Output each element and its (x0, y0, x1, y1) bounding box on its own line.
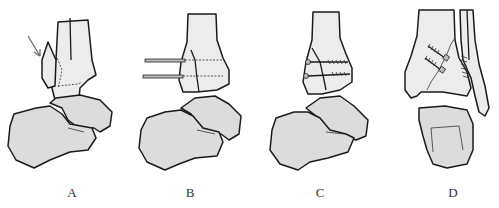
panel-b: B (125, 0, 250, 208)
ankle-illustration-b (125, 0, 250, 208)
k-wire-icon (145, 59, 185, 62)
ankle-illustration-d (375, 0, 499, 208)
panel-label-a: A (62, 185, 82, 201)
k-wire-icon (143, 75, 183, 78)
panel-label-c: C (310, 185, 330, 201)
panel-c: C (250, 0, 375, 208)
panel-d: D (375, 0, 499, 208)
ankle-illustration-c (250, 0, 375, 208)
screw-head-icon (306, 60, 311, 65)
ankle-illustration-a (0, 0, 125, 208)
screw-head-icon (304, 74, 309, 79)
panel-label-b: B (180, 185, 200, 201)
panel-a: A (0, 0, 125, 208)
panel-label-d: D (443, 185, 463, 201)
